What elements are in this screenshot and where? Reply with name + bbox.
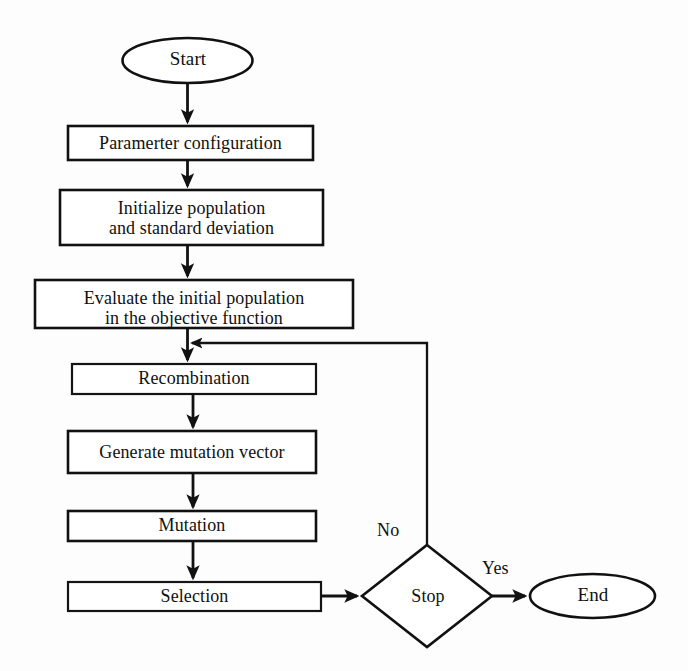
node-recomb-shape <box>72 364 316 394</box>
node-init-shape <box>60 190 323 245</box>
node-end-shape <box>530 574 655 618</box>
node-selection-shape <box>68 582 321 611</box>
node-eval-shape <box>35 280 353 328</box>
node-stop-shape <box>362 545 492 647</box>
flowchart-graphics <box>0 0 688 671</box>
edge-label-yes: Yes <box>482 558 509 579</box>
flowchart-canvas: Start Paramerter configuration Initializ… <box>0 0 688 671</box>
edge-label-no: No <box>377 520 399 541</box>
node-param-shape <box>68 126 313 160</box>
node-start-shape <box>123 38 253 83</box>
node-mutation-shape <box>68 511 316 541</box>
node-genmut-shape <box>68 431 316 473</box>
